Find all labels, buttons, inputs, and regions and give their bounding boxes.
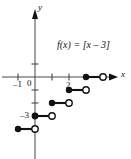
x-tick-label-neg1: –1 <box>13 80 22 89</box>
closed-endpoint-dot <box>15 126 21 132</box>
function-formula: f(x) = [x – 3] <box>57 40 110 50</box>
y-axis-label: y <box>38 3 42 12</box>
origin-label: 0 <box>27 79 32 88</box>
closed-endpoint-dot <box>32 113 39 120</box>
open-endpoint-circle <box>100 74 106 80</box>
graph-figure: y x –1 0 2 –3 f(x) = [x – 3] <box>0 0 131 159</box>
open-endpoint-circle <box>32 126 38 132</box>
x-tick-label-2: 2 <box>66 81 71 90</box>
open-endpoint-circle <box>66 100 72 106</box>
y-tick-label-neg3: –3 <box>20 111 29 120</box>
closed-endpoint-dot <box>49 100 55 106</box>
open-endpoint-circle <box>83 87 89 93</box>
open-endpoint-circle <box>49 113 55 119</box>
step-segment-yneg2 <box>49 100 72 106</box>
x-axis-label: x <box>121 70 125 79</box>
closed-endpoint-dot <box>83 74 89 80</box>
step-segment-yneg4 <box>15 126 38 132</box>
step-segment-y0 <box>83 74 106 80</box>
x-axis-arrowhead <box>109 74 118 81</box>
step-segment-yneg3 <box>32 113 56 120</box>
